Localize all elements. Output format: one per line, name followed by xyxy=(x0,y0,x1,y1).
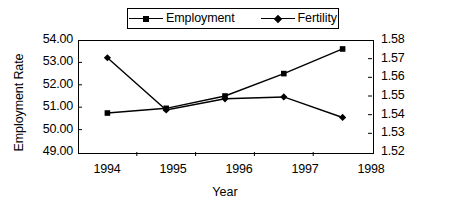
x-tick-1994: 1994 xyxy=(84,163,130,176)
x-tick-1997: 1997 xyxy=(282,163,328,176)
x-tick-1998: 1998 xyxy=(348,163,394,176)
x-axis-tick-labels: 1994 1995 1996 1997 1998 xyxy=(0,0,457,211)
y-axis-title: Employment Rate xyxy=(13,33,26,173)
chart-container: Employment Fertility 54.00 53.00 52.00 5… xyxy=(0,0,457,211)
x-tick-1996: 1996 xyxy=(216,163,262,176)
edge-marginalia xyxy=(444,72,457,142)
x-tick-1995: 1995 xyxy=(150,163,196,176)
x-axis-title: Year xyxy=(175,186,275,199)
